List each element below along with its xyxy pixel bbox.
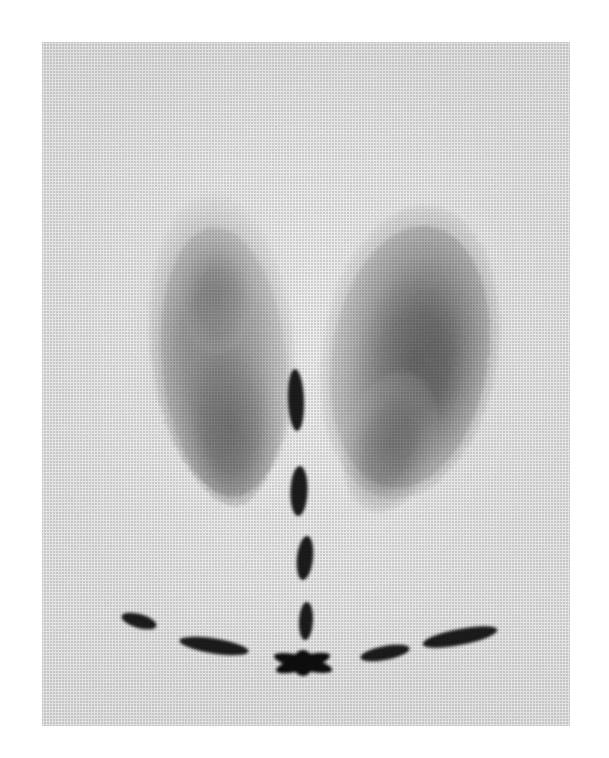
clavicle-dash-left-outer — [120, 609, 158, 632]
junction-core — [293, 650, 313, 676]
midline-dash-1 — [287, 369, 305, 432]
midline-dash-3 — [295, 535, 316, 580]
thyroid-scintigram-page — [0, 0, 609, 758]
midline-marker-chain — [287, 369, 315, 641]
clavicle-dash-left-inner — [178, 633, 249, 659]
midline-dash-2 — [290, 466, 309, 517]
clavicle-dash-right-inner — [359, 641, 411, 664]
midline-clavicle-junction-marker — [272, 649, 334, 678]
scan-field — [42, 42, 570, 726]
clavicle-dash-right-outer — [421, 622, 499, 652]
midline-dash-4 — [298, 602, 314, 641]
marker-layer — [42, 42, 570, 726]
